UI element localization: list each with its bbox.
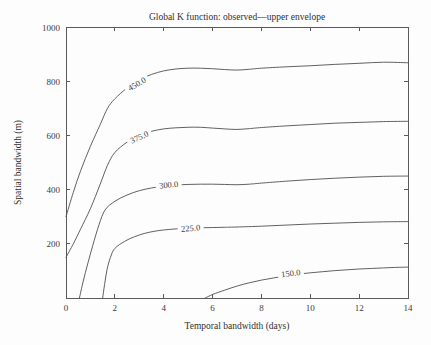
x-axis-title: Temporal bandwidth (days) xyxy=(185,321,290,332)
contour-label-225.0: 225.0 xyxy=(181,222,201,234)
x-tick-label: 8 xyxy=(259,303,264,313)
x-tick-label: 2 xyxy=(113,303,118,313)
x-tick-label: 10 xyxy=(306,303,316,313)
y-tick-label: 800 xyxy=(47,77,61,87)
y-tick-label: 200 xyxy=(47,239,61,249)
chart-page: 024681012142004006008001000450.0375.0300… xyxy=(0,0,431,345)
x-tick-label: 12 xyxy=(355,303,364,313)
y-tick-label: 1000 xyxy=(42,23,61,33)
y-tick-label: 400 xyxy=(47,185,61,195)
y-tick-label: 600 xyxy=(47,131,61,141)
chart-title: Global K function: observed—upper envelo… xyxy=(149,12,325,22)
x-tick-label: 14 xyxy=(404,303,414,313)
x-tick-label: 4 xyxy=(161,303,166,313)
x-tick-label: 6 xyxy=(210,303,215,313)
x-tick-label: 0 xyxy=(64,303,69,313)
contour-label-300.0: 300.0 xyxy=(159,179,179,191)
contour-plot: 024681012142004006008001000450.0375.0300… xyxy=(0,0,431,345)
y-axis-title: Spatial bandwidth (m) xyxy=(13,120,24,205)
